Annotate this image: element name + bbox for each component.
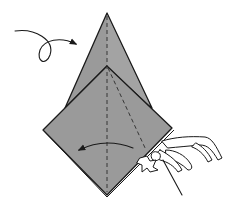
turn-over-loop-arrow-icon bbox=[15, 31, 76, 62]
front-square bbox=[43, 66, 174, 197]
origami-diagram: Kite/diamond paper fold with turn-over a… bbox=[0, 0, 231, 208]
